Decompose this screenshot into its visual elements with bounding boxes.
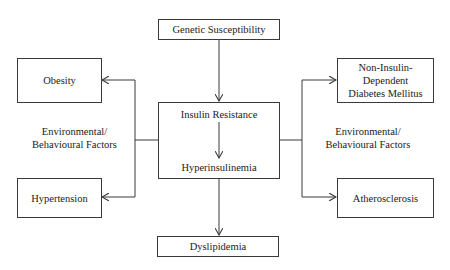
node-hyperinsulinemia: Hyperinsulinemia (159, 161, 279, 174)
node-genetic-susceptibility: Genetic Susceptibility (158, 19, 280, 40)
node-insulin-resistance: Insulin Resistance (159, 108, 279, 121)
side-label-left-line2: Behavioural Factors (22, 138, 127, 151)
node-label: Obesity (43, 74, 76, 87)
node-label: Hypertension (31, 192, 88, 205)
node-label-line2: Dependent (363, 74, 408, 87)
node-niddm: Non-Insulin- Dependent Diabetes Mellitus (337, 58, 434, 103)
node-dyslipidemia: Dyslipidemia (157, 236, 279, 257)
side-label-right: Environmental/ Behavioural Factors (315, 125, 421, 151)
node-label: Atherosclerosis (353, 192, 418, 205)
side-label-left: Environmental/ Behavioural Factors (22, 125, 127, 151)
node-atherosclerosis: Atherosclerosis (337, 178, 434, 218)
node-label: Genetic Susceptibility (172, 23, 265, 36)
node-label-line3: Diabetes Mellitus (348, 87, 422, 100)
side-label-right-line2: Behavioural Factors (315, 138, 421, 151)
node-label-line1: Non-Insulin- (358, 61, 412, 74)
side-label-left-line1: Environmental/ (22, 125, 127, 138)
node-hypertension: Hypertension (17, 178, 102, 218)
node-central: Insulin Resistance Hyperinsulinemia (158, 102, 280, 179)
side-label-right-line1: Environmental/ (315, 125, 421, 138)
node-label: Dyslipidemia (190, 240, 247, 253)
node-obesity: Obesity (17, 58, 102, 103)
